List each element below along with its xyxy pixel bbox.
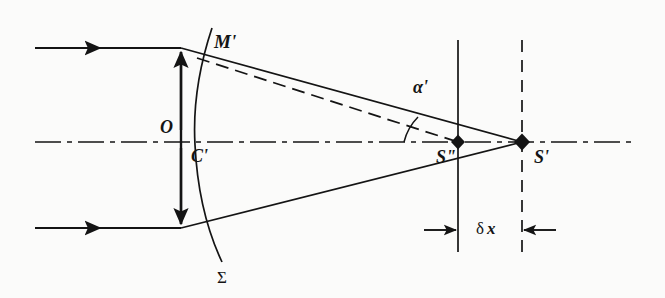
marginal-ray-solid (181, 48, 522, 142)
label-longitudinal-defect-delta-x: δx (476, 220, 496, 237)
optics-figure: M' O C' Σ α' S" S' δx (0, 0, 665, 298)
label-marginal-focus-s-double-prime: S" (436, 148, 456, 166)
x-glyph: x (484, 219, 496, 238)
wavefront-curve-sigma (195, 28, 222, 262)
reference-ray-dashed (197, 58, 458, 142)
label-wavefront-point-m-prime: M' (214, 32, 236, 51)
label-angle-alpha-prime: α' (413, 78, 428, 96)
lower-marginal-ray-solid (181, 142, 522, 228)
label-wavefront-sigma: Σ (217, 269, 227, 286)
label-aperture-o: O (160, 118, 173, 136)
ray-diagram-canvas (0, 0, 665, 298)
focus-marker-paraxial (514, 134, 530, 151)
angle-arc-alpha (404, 117, 418, 142)
delta-glyph: δ (476, 219, 484, 238)
label-wavefront-center-c-prime: C' (191, 147, 208, 165)
label-paraxial-focus-s-prime: S' (534, 148, 549, 166)
